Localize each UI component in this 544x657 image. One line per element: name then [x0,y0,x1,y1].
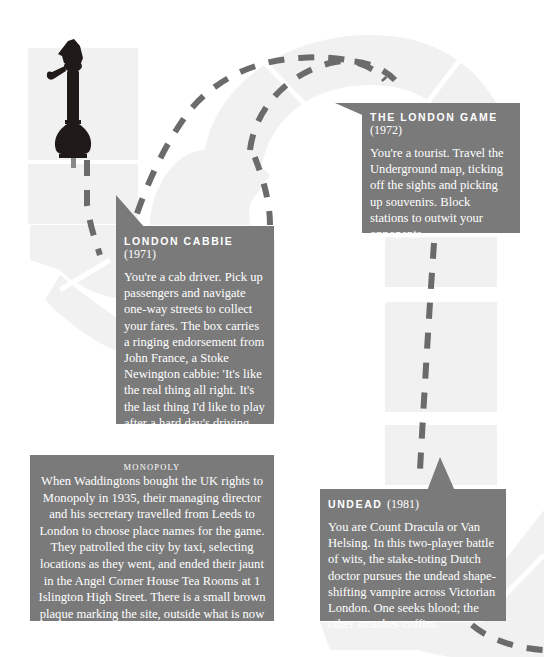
monopoly-description: When Waddingtons bought the UK rights to… [38,473,266,639]
footnote-marker[interactable]: 1 [221,622,225,631]
london-game-title: The London Game [370,111,512,123]
undead-title: Undead [328,498,383,510]
london-cabbie-description: You're a cab driver. Pick up passengers … [124,269,266,447]
sherlock-pawn-icon [38,38,108,170]
card-monopoly: Monopoly When Waddingtons bought the UK … [30,455,274,621]
card-london-game: The London Game (1972) You're a tourist.… [362,103,520,233]
london-cabbie-title: London Cabbie [124,235,233,247]
monopoly-title: Monopoly [38,462,266,472]
undead-year: (1981) [387,497,419,511]
undead-heading: Undead (1981) [328,497,498,512]
london-game-description: You're a tourist. Travel the Underground… [370,145,512,242]
card-undead: Undead (1981) You are Count Dracula or V… [320,489,506,621]
london-game-year: (1972) [370,123,512,138]
card-london-cabbie: London Cabbie (1971) You're a cab driver… [116,226,274,424]
monopoly-text: When Waddingtons bought the UK rights to… [38,474,265,637]
london-cabbie-year: (1971) [124,247,156,261]
undead-description: You are Count Dracula or Van Helsing. In… [328,519,498,632]
london-cabbie-heading: London Cabbie (1971) [124,235,266,262]
